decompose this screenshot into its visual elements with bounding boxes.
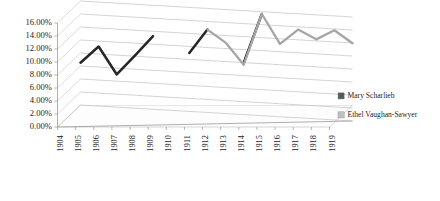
gridline-riser-8 xyxy=(58,53,81,75)
x-axis-label-1911: 1911 xyxy=(183,135,192,151)
y-axis-label-10: 10.00% xyxy=(26,56,53,66)
x-axis-label-1919: 1919 xyxy=(328,135,337,152)
y-axis-label-4: 4.00% xyxy=(30,95,52,105)
x-axis-label-1918: 1918 xyxy=(309,135,318,152)
gridline-riser-6 xyxy=(58,66,81,88)
gridline-riser-12 xyxy=(58,27,81,49)
y-axis-label-8: 8.00% xyxy=(30,69,52,79)
legend-label-0[interactable]: Mary Scharlieb xyxy=(348,91,395,100)
x-axis-label-1916: 1916 xyxy=(273,135,282,152)
x-axis-label-1908: 1908 xyxy=(128,135,137,152)
x-axis-label-1905: 1905 xyxy=(74,135,83,152)
x-axis-label-1910: 1910 xyxy=(164,135,173,152)
chart-container: 0.00%2.00%4.00%6.00%8.00%10.00%12.00%14.… xyxy=(0,0,440,201)
x-axis-label-1912: 1912 xyxy=(201,135,210,152)
y-axis-label-6: 6.00% xyxy=(30,82,52,92)
x-axis-label-1917: 1917 xyxy=(291,135,300,152)
x-axis-label-1915: 1915 xyxy=(255,135,264,152)
y-axis-label-16: 16.00% xyxy=(26,17,53,27)
gridline-riser-10 xyxy=(58,40,81,62)
gridline-riser-4 xyxy=(58,79,81,101)
x-axis-label-1906: 1906 xyxy=(92,135,101,152)
y-axis-label-14: 14.00% xyxy=(26,30,53,40)
y-axis-label-12: 12.00% xyxy=(26,43,53,53)
line-chart-3d: 0.00%2.00%4.00%6.00%8.00%10.00%12.00%14.… xyxy=(0,0,440,201)
x-axis-label-1909: 1909 xyxy=(146,135,155,152)
x-axis-label-1913: 1913 xyxy=(219,135,228,152)
gridline-riser-14 xyxy=(58,14,81,36)
legend-label-1[interactable]: Ethel Vaughan-Sawyer xyxy=(348,110,418,119)
x-axis-label-1907: 1907 xyxy=(110,135,119,152)
x-axis-label-1914: 1914 xyxy=(237,134,246,152)
y-axis-label-0: 0.00% xyxy=(30,121,52,131)
gridline-riser-16 xyxy=(58,1,81,23)
x-axis-label-1904: 1904 xyxy=(56,134,65,152)
y-axis-label-2: 2.00% xyxy=(30,108,52,118)
